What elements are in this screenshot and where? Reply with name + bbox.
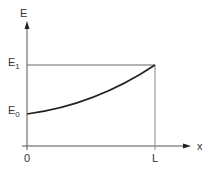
e0-label-sub: 0 [15,110,20,119]
energy-curve [27,65,155,114]
e0-label-main: E [8,104,15,116]
x-tick-origin: 0 [24,152,30,164]
e0-label: E0 [8,104,20,119]
energy-diagram: E x E1 E0 0 L [0,0,214,171]
x-axis-label: x [197,140,203,152]
e1-label-main: E [8,56,15,68]
e1-label: E1 [8,56,20,71]
x-axis-arrow-icon [183,144,191,149]
x-tick-l: L [152,152,158,164]
y-axis-arrow-icon [25,21,30,29]
e1-label-sub: 1 [15,62,20,71]
y-axis-label: E [20,7,27,19]
